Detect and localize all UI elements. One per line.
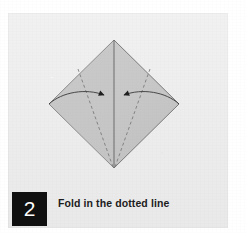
step-caption: Fold in the dotted line <box>58 197 218 210</box>
step-number-label: 2 <box>24 198 36 220</box>
paper-shading-left <box>49 40 114 168</box>
step-number-badge: 2 <box>12 192 47 226</box>
instruction-card: 2 Fold in the dotted line <box>0 0 246 233</box>
